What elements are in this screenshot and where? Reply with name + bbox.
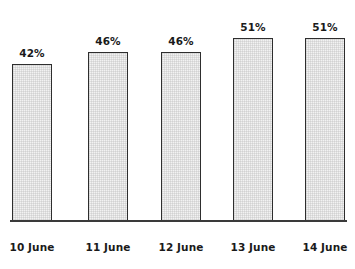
category-label-3: 13 June — [218, 241, 288, 253]
plot-area: 42% 46% 46% 51% 51% 10 June 11 June 12 J… — [0, 0, 355, 269]
bar-1[interactable] — [88, 52, 128, 221]
bar-4[interactable] — [305, 38, 345, 221]
bar-value-label-0: 42% — [12, 47, 52, 59]
bar-0[interactable] — [12, 64, 52, 221]
bar-value-label-4: 51% — [305, 21, 345, 33]
category-label-4: 14 June — [290, 241, 355, 253]
x-axis-line — [10, 220, 347, 222]
bar-2[interactable] — [161, 52, 201, 221]
bar-value-label-1: 46% — [88, 35, 128, 47]
bar-chart: 42% 46% 46% 51% 51% 10 June 11 June 12 J… — [0, 0, 355, 269]
category-label-2: 12 June — [146, 241, 216, 253]
bar-value-label-3: 51% — [233, 21, 273, 33]
bar-value-label-2: 46% — [161, 35, 201, 47]
category-label-0: 10 June — [0, 241, 67, 253]
bar-3[interactable] — [233, 38, 273, 221]
category-label-1: 11 June — [73, 241, 143, 253]
